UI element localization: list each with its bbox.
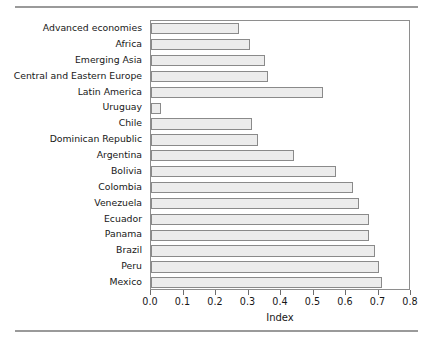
bar: [151, 71, 268, 82]
bar-row: [151, 164, 409, 180]
bar-row: [151, 100, 409, 116]
category-label: Emerging Asia: [0, 52, 146, 68]
bar: [151, 230, 369, 241]
x-tick: [150, 290, 151, 295]
bar: [151, 277, 382, 288]
category-label: Central and Eastern Europe: [0, 68, 146, 84]
x-tick: [345, 290, 346, 295]
x-tick-label: 0.1: [175, 296, 190, 307]
bar: [151, 245, 375, 256]
chart-figure: Advanced economiesAfricaEmerging AsiaCen…: [0, 0, 432, 339]
x-tick-label: 0.3: [240, 296, 255, 307]
bar: [151, 134, 258, 145]
bar: [151, 150, 294, 161]
x-tick: [215, 290, 216, 295]
bar: [151, 23, 239, 34]
top-rule: [15, 6, 418, 8]
x-tick-label: 0.5: [305, 296, 320, 307]
bar-row: [151, 69, 409, 85]
category-label: Uruguay: [0, 99, 146, 115]
bar-row: [151, 132, 409, 148]
category-label: Chile: [0, 115, 146, 131]
x-axis-tick-labels: 0.00.10.20.30.40.50.60.70.8: [150, 296, 410, 310]
x-tick-label: 0.0: [142, 296, 157, 307]
bar: [151, 87, 323, 98]
x-tick: [280, 290, 281, 295]
category-label: Brazil: [0, 242, 146, 258]
category-label: Africa: [0, 36, 146, 52]
bar: [151, 55, 265, 66]
category-label: Ecuador: [0, 211, 146, 227]
category-label: Peru: [0, 258, 146, 274]
x-tick: [248, 290, 249, 295]
bar-row: [151, 53, 409, 69]
x-tick-label: 0.6: [337, 296, 352, 307]
x-tick: [378, 290, 379, 295]
x-tick-label: 0.8: [402, 296, 417, 307]
bar-row: [151, 196, 409, 212]
category-label: Venezuela: [0, 195, 146, 211]
category-label: Bolivia: [0, 163, 146, 179]
plot-area: [150, 20, 410, 290]
bar: [151, 214, 369, 225]
x-tick-label: 0.7: [370, 296, 385, 307]
category-label: Advanced economies: [0, 20, 146, 36]
bar-row: [151, 37, 409, 53]
bar: [151, 261, 379, 272]
category-axis-labels: Advanced economiesAfricaEmerging AsiaCen…: [0, 20, 146, 290]
bar-series: [151, 21, 409, 289]
bar: [151, 166, 336, 177]
category-label: Dominican Republic: [0, 131, 146, 147]
x-tick: [183, 290, 184, 295]
bar: [151, 182, 353, 193]
bar-row: [151, 148, 409, 164]
category-label: Mexico: [0, 274, 146, 290]
bar-row: [151, 180, 409, 196]
bar-row: [151, 85, 409, 101]
category-label: Latin America: [0, 84, 146, 100]
x-tick-label: 0.2: [207, 296, 222, 307]
category-label: Colombia: [0, 179, 146, 195]
bar-row: [151, 116, 409, 132]
category-label: Panama: [0, 226, 146, 242]
bar: [151, 103, 161, 114]
bar-row: [151, 275, 409, 291]
bar: [151, 118, 252, 129]
bar: [151, 39, 250, 50]
bar-row: [151, 212, 409, 228]
bar-row: [151, 21, 409, 37]
bar-row: [151, 227, 409, 243]
bar-row: [151, 243, 409, 259]
x-tick: [313, 290, 314, 295]
category-label: Argentina: [0, 147, 146, 163]
x-axis-title: Index: [150, 312, 410, 323]
x-tick: [410, 290, 411, 295]
bottom-rule: [15, 330, 418, 332]
x-tick-label: 0.4: [272, 296, 287, 307]
bar: [151, 198, 359, 209]
bar-row: [151, 259, 409, 275]
